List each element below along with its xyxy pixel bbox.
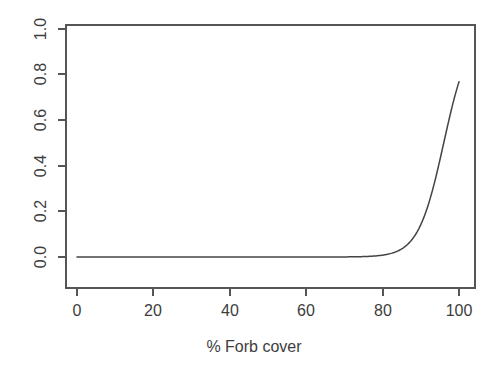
y-tick-label: 0.2 <box>32 200 49 222</box>
x-tick-label: 80 <box>374 302 392 319</box>
x-tick-label: 40 <box>221 302 239 319</box>
forb-cover-response-chart: 0 20 40 60 80 100 0.0 0.2 0.4 0.6 0.8 1.… <box>0 0 504 373</box>
x-tick-label: 100 <box>446 302 473 319</box>
y-tick-label: 0.8 <box>32 63 49 85</box>
x-tick-label: 0 <box>73 302 82 319</box>
x-tick-label: 60 <box>297 302 315 319</box>
y-tick-label: 0.6 <box>32 109 49 131</box>
x-axis-title: % Forb cover <box>206 338 302 355</box>
y-tick-label: 0.0 <box>32 246 49 268</box>
y-tick-label: 0.4 <box>32 155 49 177</box>
chart-figure: 0 20 40 60 80 100 0.0 0.2 0.4 0.6 0.8 1.… <box>0 0 504 373</box>
y-tick-label: 1.0 <box>32 18 49 40</box>
x-tick-label: 20 <box>144 302 162 319</box>
